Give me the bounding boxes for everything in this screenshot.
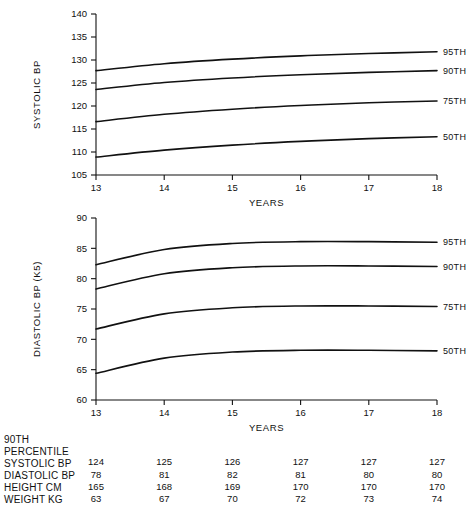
table-cell: 81 xyxy=(295,469,306,480)
percentile-label-50th: 50TH xyxy=(443,132,466,142)
table-cell: 124 xyxy=(88,456,104,467)
table-cell: 170 xyxy=(361,481,377,492)
table-cell: 78 xyxy=(91,469,102,480)
x-axis-tick-label: 13 xyxy=(91,182,102,193)
y-axis-tick-label: 60 xyxy=(76,394,87,405)
x-axis-tick-label: 15 xyxy=(227,407,238,418)
y-axis-tick-label: 70 xyxy=(76,334,87,345)
percentile-label-75th: 75TH xyxy=(443,96,466,106)
table-cell: 170 xyxy=(293,481,309,492)
table-row-label: HEIGHT CM xyxy=(4,482,62,493)
y-axis-tick-label: 140 xyxy=(71,8,87,19)
table-cell: 82 xyxy=(227,469,238,480)
table-cell: 127 xyxy=(429,456,445,467)
table-cell: 70 xyxy=(227,493,238,504)
table-cell: 170 xyxy=(429,481,445,492)
y-axis-tick-label: 125 xyxy=(71,77,87,88)
figure-container: 105110115120125130135140131415161718YEAR… xyxy=(0,0,475,521)
table-cell: 125 xyxy=(156,456,172,467)
x-axis-tick-label: 14 xyxy=(159,407,170,418)
y-axis-tick-label: 105 xyxy=(71,169,87,180)
table-row-label: DIASTOLIC BP xyxy=(4,470,75,481)
y-axis-tick-label: 115 xyxy=(72,123,87,134)
table-cell: 72 xyxy=(295,493,306,504)
table-cell: 169 xyxy=(224,481,240,492)
table-cell: 165 xyxy=(88,481,104,492)
x-axis-tick-label: 15 xyxy=(227,182,238,193)
table-cell: 67 xyxy=(159,493,170,504)
table-cell: 127 xyxy=(293,456,309,467)
y-axis-tick-label: 65 xyxy=(76,364,87,375)
x-axis-tick-label: 16 xyxy=(295,407,306,418)
table-cell: 126 xyxy=(224,456,240,467)
table-row-label: SYSTOLIC BP xyxy=(4,458,72,469)
y-axis-tick-label: 75 xyxy=(76,303,87,314)
y-axis-tick-label: 130 xyxy=(71,54,87,65)
percentile-label-95th: 95TH xyxy=(443,237,466,247)
y-axis-tick-label: 120 xyxy=(71,100,87,111)
y-axis-tick-label: 90 xyxy=(76,212,87,223)
percentile-label-95th: 95TH xyxy=(443,47,466,57)
percentile-label-90th: 90TH xyxy=(443,66,466,76)
y-axis-title: DIASTOLIC BP (K5) xyxy=(31,261,42,357)
blood-pressure-percentile-figure: 105110115120125130135140131415161718YEAR… xyxy=(0,0,475,521)
table-cell: 80 xyxy=(364,469,375,480)
x-axis-tick-label: 13 xyxy=(91,407,102,418)
table-cell: 80 xyxy=(432,469,443,480)
y-axis-tick-label: 85 xyxy=(76,243,87,254)
percentile-label-50th: 50TH xyxy=(443,346,466,356)
y-axis-tick-label: 135 xyxy=(71,31,87,42)
table-header-percentile-line2: PERCENTILE xyxy=(4,446,69,457)
table-cell: 81 xyxy=(159,469,170,480)
y-axis-title: SYSTOLIC BP xyxy=(31,60,42,129)
x-axis-tick-label: 17 xyxy=(364,407,375,418)
table-cell: 168 xyxy=(156,481,172,492)
x-axis-tick-label: 18 xyxy=(432,182,443,193)
table-cell: 73 xyxy=(364,493,375,504)
x-axis-title: YEARS xyxy=(249,422,284,433)
x-axis-tick-label: 14 xyxy=(159,182,170,193)
table-header-percentile-line1: 90TH xyxy=(4,434,29,445)
x-axis-tick-label: 18 xyxy=(432,407,443,418)
table-cell: 127 xyxy=(361,456,377,467)
table-cell: 74 xyxy=(432,493,443,504)
percentile-label-90th: 90TH xyxy=(443,262,466,272)
x-axis-title: YEARS xyxy=(249,197,284,208)
y-axis-tick-label: 110 xyxy=(72,146,87,157)
x-axis-tick-label: 16 xyxy=(295,182,306,193)
x-axis-tick-label: 17 xyxy=(364,182,375,193)
table-cell: 63 xyxy=(91,493,102,504)
y-axis-tick-label: 80 xyxy=(76,273,87,284)
percentile-label-75th: 75TH xyxy=(443,302,466,312)
table-row-label: WEIGHT KG xyxy=(4,494,63,505)
